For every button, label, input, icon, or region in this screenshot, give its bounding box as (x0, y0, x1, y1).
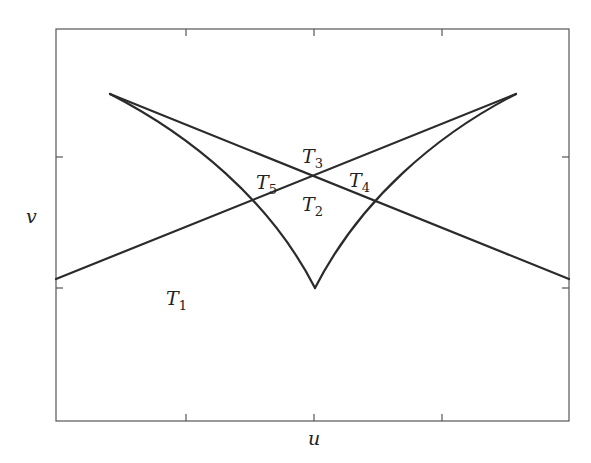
left-cusp-branch (110, 94, 315, 288)
falling-line (110, 94, 569, 279)
right-cusp-branch (315, 94, 516, 288)
plot-canvas: T1 T2 T3 T4 T5 v u (0, 0, 591, 463)
y-axis-label: v (26, 205, 37, 227)
region-label-t5: T5 (256, 171, 277, 197)
rising-line (56, 94, 516, 279)
x-axis-label: u (308, 427, 320, 449)
plot-frame (56, 29, 569, 421)
region-label-t3: T3 (302, 145, 323, 171)
x-axis-ticks (186, 29, 442, 421)
region-label-t2: T2 (302, 193, 323, 219)
region-label-t1: T1 (166, 287, 187, 313)
